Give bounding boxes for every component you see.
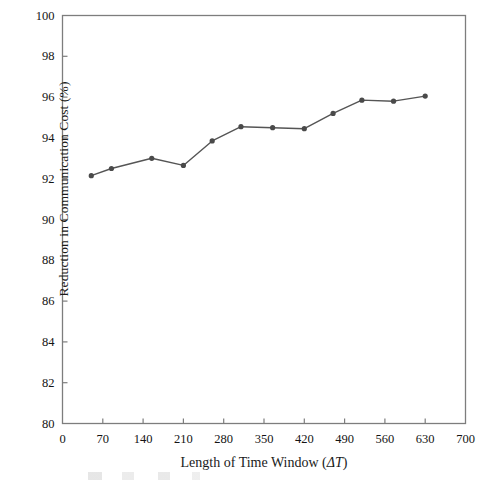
x-tick-label: 630	[402, 432, 448, 447]
x-tick-label: 210	[160, 432, 206, 447]
x-tick-label: 350	[241, 432, 287, 447]
x-tick-label: 420	[281, 432, 327, 447]
y-tick-label: 98	[15, 49, 55, 63]
data-point-marker: 155, 93	[149, 156, 154, 161]
series-line-reduction	[91, 96, 425, 176]
x-axis-title: Length of Time Window (ΔT)	[62, 455, 466, 471]
y-tick-label: 86	[15, 294, 55, 308]
plot-frame	[63, 16, 466, 424]
x-axis-title-suffix: )	[343, 455, 348, 470]
y-tick-label: 96	[15, 90, 55, 104]
data-point-marker: 575, 95.8	[391, 99, 396, 104]
x-tick-label: 140	[120, 432, 166, 447]
data-point-marker: 420, 94.45	[302, 126, 307, 131]
data-point-marker: 310, 94.55	[238, 124, 243, 129]
y-axis-title: Reduction in Communication Cost (%)	[53, 39, 75, 339]
y-tick-label: 94	[15, 131, 55, 145]
series-markers-reduction: 50, 92.1585, 92.5155, 93210, 92.65260, 9…	[89, 93, 428, 178]
data-point-marker: 470, 95.2	[330, 111, 335, 116]
y-tick-label: 88	[15, 253, 55, 267]
chart-figure: Reduction in Communication Cost (%) 50, …	[0, 0, 487, 483]
data-point-marker: 520, 95.85	[359, 98, 364, 103]
y-tick-label: 100	[15, 9, 55, 23]
y-tick-label: 90	[15, 213, 55, 227]
x-tick-label: 560	[362, 432, 408, 447]
x-axis-title-prefix: Length of Time Window (	[181, 455, 327, 470]
y-tick-label: 92	[15, 172, 55, 186]
x-tick-marks	[103, 419, 425, 424]
caption-remnant	[88, 472, 388, 480]
x-tick-label: 490	[322, 432, 368, 447]
x-axis-title-delta-symbol: ΔT	[327, 455, 343, 470]
x-tick-label: 280	[201, 432, 247, 447]
data-point-marker: 365, 94.5	[270, 125, 275, 130]
data-point-marker: 630, 96.05	[423, 93, 428, 98]
y-tick-label: 80	[15, 417, 55, 431]
x-tick-label: 70	[80, 432, 126, 447]
data-point-marker: 260, 93.85	[210, 138, 215, 143]
x-tick-label: 700	[443, 432, 487, 447]
x-tick-label: 0	[40, 432, 86, 447]
y-tick-label: 84	[15, 335, 55, 349]
data-point-marker: 85, 92.5	[109, 166, 114, 171]
y-tick-label: 82	[15, 376, 55, 390]
data-point-marker: 50, 92.15	[89, 173, 94, 178]
data-point-marker: 210, 92.65	[181, 163, 186, 168]
